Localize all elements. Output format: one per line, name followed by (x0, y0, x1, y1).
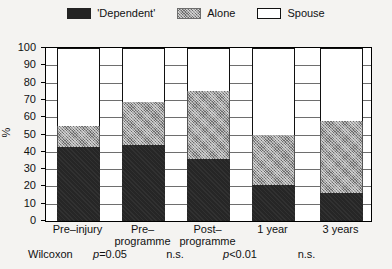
bar-stack (187, 48, 230, 221)
bar-segment-dependent (57, 147, 100, 221)
y-axis-tick-label: 20 (24, 180, 36, 191)
wilcoxon-value-text: n.s. (166, 248, 184, 260)
bar-segment-dependent (187, 159, 230, 221)
bar-segment-alone (320, 121, 363, 194)
y-axis-tick-label: 10 (24, 198, 36, 209)
bar-segment-spouse (57, 48, 100, 126)
chart-legend: 'Dependent' Alone Spouse (0, 8, 392, 19)
swatch-dark-filled-icon (67, 8, 91, 19)
y-axis-tick-label: 100 (18, 42, 36, 53)
legend-item-spouse: Spouse (257, 8, 324, 19)
x-axis-tick-label-line: programme (164, 236, 252, 248)
y-axis-title: % (1, 128, 12, 138)
y-axis-tick-label: 40 (24, 146, 36, 157)
bar-segment-spouse (122, 48, 165, 102)
bar-segment-dependent (122, 145, 165, 221)
legend-item-dependent: 'Dependent' (67, 8, 155, 19)
wilcoxon-value-text: =0.05 (99, 248, 127, 260)
swatch-white-outlined-icon (257, 8, 281, 19)
legend-label-dependent: 'Dependent' (97, 8, 155, 19)
y-axis-tick-label: 70 (24, 94, 36, 105)
y-axis-tick-label: 30 (24, 163, 36, 174)
bar-segment-spouse (320, 48, 363, 121)
y-axis-tick-label: 80 (24, 77, 36, 88)
swatch-gray-stippled-icon (177, 8, 201, 19)
wilcoxon-annotation-row: Wilcoxon p=0.05n.s.p<0.01n.s. (0, 249, 392, 265)
plot-area (45, 47, 372, 222)
bar-segment-alone (122, 102, 165, 145)
legend-label-spouse: Spouse (287, 8, 324, 19)
legend-item-alone: Alone (177, 8, 235, 19)
bar-segment-alone (252, 135, 295, 185)
bar-segment-spouse (252, 48, 295, 135)
bar-segment-alone (187, 91, 230, 158)
wilcoxon-label: Wilcoxon (28, 249, 73, 260)
bar-stack (122, 48, 165, 221)
bar-segment-dependent (252, 185, 295, 221)
legend-label-alone: Alone (207, 8, 235, 19)
bar-stack (320, 48, 363, 221)
wilcoxon-value-text: <0.01 (229, 248, 257, 260)
wilcoxon-value: n.s. (267, 249, 347, 260)
bar-segment-dependent (320, 193, 363, 221)
bars-layer (46, 48, 371, 221)
bar-stack (252, 48, 295, 221)
x-axis-tick-label: 3 years (297, 224, 385, 236)
y-axis-tick-label: 50 (24, 129, 36, 140)
bar-stack (57, 48, 100, 221)
y-axis-tick-label: 60 (24, 111, 36, 122)
bar-segment-alone (57, 126, 100, 147)
bar-segment-spouse (187, 48, 230, 91)
y-axis-tick-label: 90 (24, 59, 36, 70)
x-axis: Pre–injuryPre–programmePost–programme1 y… (45, 224, 370, 248)
wilcoxon-value-text: n.s. (298, 248, 316, 260)
x-axis-tick-label-line: 3 years (297, 224, 385, 236)
